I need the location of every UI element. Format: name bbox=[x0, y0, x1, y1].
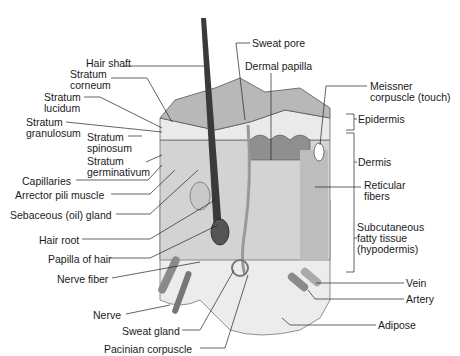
label-sweat-gland: Sweat gland bbox=[122, 326, 180, 337]
reticular-band bbox=[300, 150, 328, 260]
label-nerve: Nerve bbox=[93, 310, 121, 321]
label-epidermis: Epidermis bbox=[358, 114, 405, 125]
label-arrector-pili: Arrector pili muscle bbox=[15, 190, 104, 201]
label-stratum-spinosum-2: spinosum bbox=[87, 143, 132, 154]
label-subcutaneous-3: (hypodermis) bbox=[357, 244, 418, 255]
label-artery: Artery bbox=[406, 294, 434, 305]
hair-bulb bbox=[211, 219, 229, 245]
label-capillaries: Capillaries bbox=[22, 176, 71, 187]
label-pacinian-corpuscle: Pacinian corpuscle bbox=[104, 344, 192, 355]
label-vein: Vein bbox=[406, 278, 426, 289]
label-sweat-pore: Sweat pore bbox=[252, 38, 305, 49]
meissner-shape bbox=[314, 143, 324, 161]
label-dermis: Dermis bbox=[358, 157, 391, 168]
label-meissner-corpuscle-2: corpuscle (touch) bbox=[370, 92, 451, 103]
label-papilla-of-hair: Papilla of hair bbox=[48, 254, 112, 265]
label-stratum-corneum-2: corneum bbox=[70, 80, 111, 91]
label-stratum-granulosum-2: granulosum bbox=[26, 128, 81, 139]
label-sebaceous-gland: Sebaceous (oil) gland bbox=[10, 210, 112, 221]
label-stratum-lucidum-2: lucidum bbox=[44, 103, 80, 114]
label-hair-root: Hair root bbox=[39, 235, 79, 246]
label-nerve-fiber: Nerve fiber bbox=[57, 274, 108, 285]
skin-diagram: Hair shaft Stratum corneum Stratum lucid… bbox=[0, 0, 460, 356]
label-stratum-germinativum-2: germinativum bbox=[87, 167, 150, 178]
label-dermal-papilla: Dermal papilla bbox=[245, 61, 312, 72]
label-adipose: Adipose bbox=[378, 320, 416, 331]
sebaceous-gland-shape bbox=[190, 182, 210, 210]
label-reticular-fibers-2: fibers bbox=[364, 191, 390, 202]
